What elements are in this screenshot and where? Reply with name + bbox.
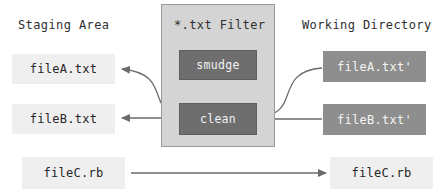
working-file-fileB-prime: fileB.txt': [323, 104, 426, 135]
staging-file-fileC: fileC.rb: [22, 157, 125, 189]
clean-process-box: clean: [179, 103, 257, 135]
smudge-process-box: smudge: [179, 50, 257, 80]
staging-file-fileB: fileB.txt: [12, 104, 115, 134]
staging-file-fileA: fileA.txt: [12, 54, 115, 84]
working-file-fileA-prime: fileA.txt': [323, 51, 426, 82]
working-directory-header: Working Directory: [302, 18, 432, 32]
working-file-fileC: fileC.rb: [330, 157, 433, 189]
txt-filter-header: *.txt Filter: [174, 18, 266, 32]
staging-area-header: Staging Area: [18, 18, 110, 32]
filter-diagram: Staging Area *.txt Filter Working Direct…: [0, 0, 445, 196]
